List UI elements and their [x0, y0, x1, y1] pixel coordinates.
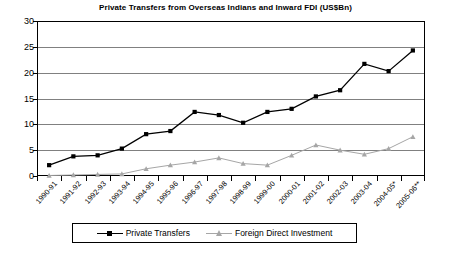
x-axis-tick-label: 2000-01 — [277, 180, 301, 206]
x-axis-tick-label: 1996-97 — [180, 180, 204, 206]
triangle-marker-icon — [289, 153, 294, 158]
legend-item-fdi[interactable]: Foreign Direct Investment — [206, 228, 332, 238]
x-axis-tick-label: 1990-91 — [35, 180, 59, 206]
triangle-marker-icon — [216, 230, 222, 236]
series-line-private-transfers — [49, 50, 413, 165]
x-axis-tick-label: 1997-98 — [204, 180, 228, 206]
x-axis-tick-label: 1998-99 — [229, 180, 253, 206]
x-axis-tick-label: 1993-94 — [107, 180, 131, 206]
square-marker-icon — [144, 132, 148, 136]
y-axis-tick-label: 5 — [8, 146, 34, 155]
legend-label-fdi: Foreign Direct Investment — [235, 228, 332, 238]
x-axis-tick-label: 1991-92 — [59, 180, 83, 206]
x-axis-tick-label: 1992-93 — [83, 180, 107, 206]
y-axis-tick-label: 10 — [8, 120, 34, 129]
triangle-marker-icon — [410, 134, 415, 139]
y-axis-tick-label: 20 — [8, 69, 34, 78]
square-marker-icon — [314, 94, 318, 98]
square-marker-icon — [47, 163, 51, 167]
square-marker-icon — [290, 107, 294, 111]
triangle-marker-icon — [313, 142, 318, 147]
square-marker-icon — [241, 121, 245, 125]
square-marker-icon — [71, 154, 75, 158]
legend-label-private-transfers: Private Transfers — [126, 228, 190, 238]
square-marker-icon — [338, 88, 342, 92]
y-axis-label-group: 051015202530 — [8, 21, 34, 176]
square-marker-icon — [120, 147, 124, 151]
triangle-marker-icon — [386, 146, 391, 151]
x-axis-tick-label: 1999-00 — [253, 180, 277, 206]
chart-legend: Private Transfers Foreign Direct Investm… — [72, 223, 357, 243]
x-axis-tick-label: 1994-95 — [132, 180, 156, 206]
x-axis-tick-label: 2001-02 — [301, 180, 325, 206]
legend-swatch-fdi — [206, 229, 232, 238]
legend-swatch-private-transfers — [97, 229, 123, 238]
square-marker-icon — [265, 110, 269, 114]
square-marker-icon — [168, 129, 172, 133]
square-marker-icon — [96, 153, 100, 157]
y-axis-tick-label: 25 — [8, 43, 34, 52]
y-axis-tick-label: 15 — [8, 95, 34, 104]
x-axis-tick-label: 2003-04 — [350, 180, 374, 206]
square-marker-icon — [107, 231, 112, 236]
x-axis-tick-label: 2002-03 — [326, 180, 350, 206]
legend-item-private-transfers[interactable]: Private Transfers — [97, 228, 190, 238]
chart-container: Private Transfers from Overseas Indians … — [0, 0, 451, 257]
x-axis-tick-label: 1995-96 — [156, 180, 180, 206]
series-line-fdi — [49, 137, 413, 176]
square-marker-icon — [193, 110, 197, 114]
y-axis-tick-label: 30 — [8, 17, 34, 26]
square-marker-icon — [217, 113, 221, 117]
chart-title: Private Transfers from Overseas Indians … — [0, 3, 451, 12]
square-marker-icon — [411, 48, 415, 52]
x-axis-label-group: 1990-911991-921992-931993-941994-951995-… — [0, 176, 451, 221]
series-layer — [37, 21, 425, 176]
square-marker-icon — [387, 69, 391, 73]
square-marker-icon — [362, 62, 366, 66]
